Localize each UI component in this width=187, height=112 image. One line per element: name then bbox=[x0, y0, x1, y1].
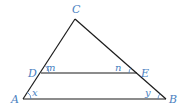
angle-arc-n bbox=[129, 68, 131, 73]
segment-ac bbox=[23, 19, 75, 99]
angle-arc-x bbox=[27, 92, 31, 99]
segment-cb bbox=[75, 19, 166, 99]
vertex-label-d: D bbox=[27, 67, 37, 80]
angle-label-n: n bbox=[115, 62, 121, 73]
angle-label-x: x bbox=[32, 87, 38, 98]
angle-label-y: y bbox=[144, 87, 151, 98]
angle-arc-y bbox=[158, 94, 160, 99]
triangle-diagram: C A B D E m n x y bbox=[0, 0, 187, 112]
vertex-label-e: E bbox=[140, 67, 149, 80]
angle-label-m: m bbox=[46, 62, 55, 73]
vertex-label-c: C bbox=[72, 3, 81, 16]
vertex-label-b: B bbox=[168, 93, 177, 106]
vertex-label-a: A bbox=[10, 93, 19, 106]
